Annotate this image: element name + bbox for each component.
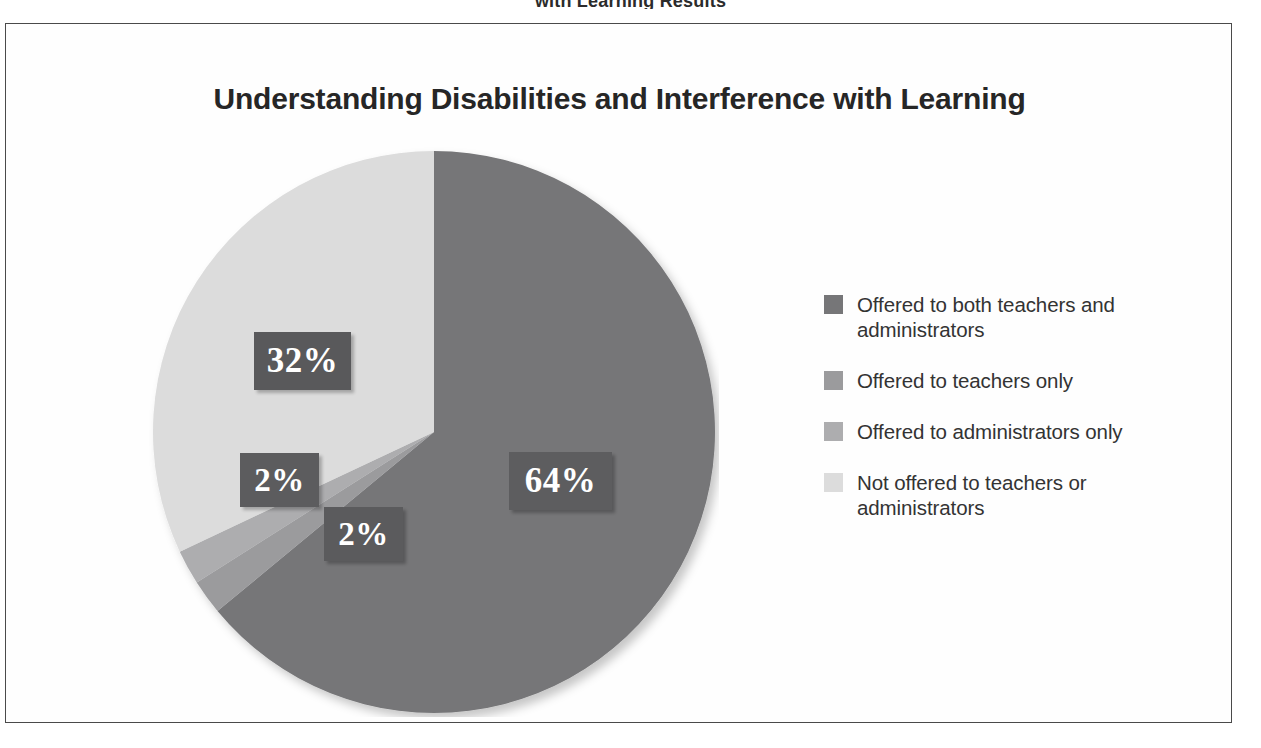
chart-title: Understanding Disabilities and Interfere… bbox=[6, 82, 1233, 116]
legend-item-label: Not offered to teachers or administrator… bbox=[857, 470, 1184, 520]
page-header-fragment: with Learning Results bbox=[0, 0, 1261, 9]
pie-label-32-percent: 32% bbox=[254, 332, 351, 390]
chart-legend: Offered to both teachers and administrat… bbox=[824, 292, 1184, 546]
legend-item-label: Offered to teachers only bbox=[857, 368, 1073, 393]
legend-item[interactable]: Offered to teachers only bbox=[824, 368, 1184, 393]
legend-item-label: Offered to both teachers and administrat… bbox=[857, 292, 1184, 342]
legend-item[interactable]: Offered to administrators only bbox=[824, 419, 1184, 444]
legend-item-label: Offered to administrators only bbox=[857, 419, 1123, 444]
pie-chart-svg bbox=[149, 147, 719, 717]
pie-chart bbox=[149, 147, 719, 717]
pie-label-2-percent-teachers: 2% bbox=[240, 453, 319, 507]
pie-label-64-percent: 64% bbox=[509, 452, 612, 510]
legend-item[interactable]: Offered to both teachers and administrat… bbox=[824, 292, 1184, 342]
legend-swatch-icon bbox=[824, 295, 843, 314]
figure-frame: Understanding Disabilities and Interfere… bbox=[5, 23, 1232, 723]
legend-swatch-icon bbox=[824, 371, 843, 390]
legend-swatch-icon bbox=[824, 473, 843, 492]
pie-label-2-percent-administrators: 2% bbox=[324, 507, 403, 561]
legend-item[interactable]: Not offered to teachers or administrator… bbox=[824, 470, 1184, 520]
pie-slice-group bbox=[153, 151, 715, 713]
legend-swatch-icon bbox=[824, 422, 843, 441]
